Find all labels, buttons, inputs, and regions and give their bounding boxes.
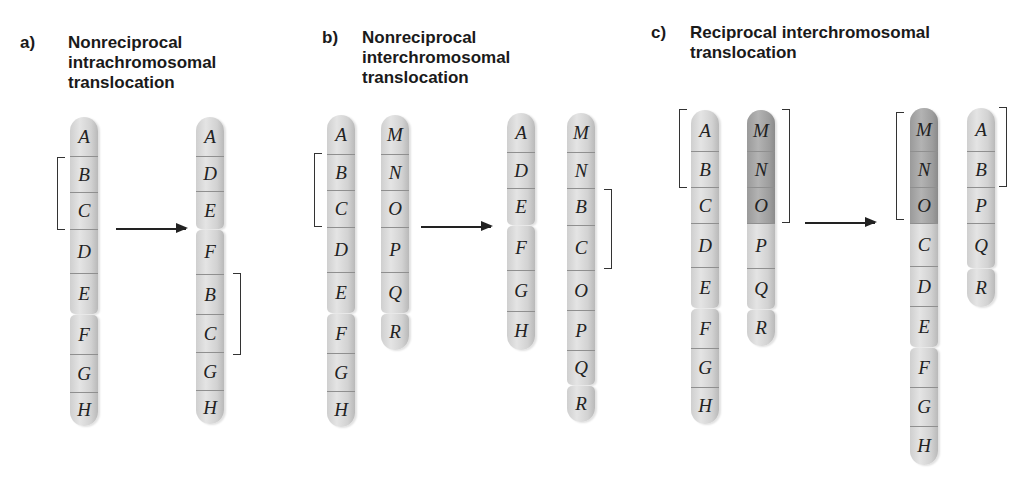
- chromosome-b-before-2: MNOPQR: [381, 115, 409, 350]
- band-m: M: [747, 110, 775, 152]
- band-o: O: [747, 188, 775, 224]
- title-line: Reciprocal interchromosomal: [690, 23, 930, 43]
- band-r: R: [567, 386, 595, 422]
- chromosome-c-before-1: ABCDEFGH: [691, 110, 719, 424]
- band-e: E: [196, 192, 224, 229]
- band-g: G: [327, 354, 355, 392]
- panel-b-title: Nonreciprocal interchromosomal transloca…: [362, 28, 510, 88]
- band-d: D: [691, 224, 719, 268]
- band-h: H: [70, 393, 98, 426]
- chromosome-c-before-2: MNOPQR: [747, 110, 775, 346]
- band-e: E: [910, 307, 938, 347]
- arrow-icon: [805, 222, 875, 224]
- q-arm: R: [567, 386, 595, 422]
- chromosome-b-after-1: ADEFGH: [507, 113, 535, 350]
- p-arm: ABCDE: [70, 117, 98, 314]
- band-e: E: [507, 189, 535, 225]
- segment-bracket: [679, 109, 687, 188]
- chromosome-c-after-2: ABPQR: [967, 108, 995, 307]
- band-f: F: [691, 309, 719, 349]
- panel-c-label: c): [651, 23, 666, 43]
- band-e: E: [327, 273, 355, 313]
- band-d: D: [910, 267, 938, 307]
- band-q: Q: [747, 269, 775, 309]
- p-arm: ADE: [196, 117, 224, 229]
- segment-bracket: [233, 273, 241, 355]
- band-d: D: [70, 230, 98, 274]
- title-line: Nonreciprocal: [68, 33, 216, 53]
- band-c: C: [910, 224, 938, 267]
- band-c: C: [567, 226, 595, 271]
- band-p: P: [747, 224, 775, 269]
- q-arm: FGH: [327, 314, 355, 427]
- title-line: Nonreciprocal: [362, 28, 510, 48]
- title-line: translocation: [68, 73, 216, 93]
- band-d: D: [507, 153, 535, 189]
- segment-bracket: [999, 107, 1007, 187]
- band-r: R: [967, 269, 995, 307]
- band-e: E: [691, 268, 719, 308]
- title-line: interchromosomal: [362, 48, 510, 68]
- q-arm: R: [747, 310, 775, 346]
- band-h: H: [196, 391, 224, 424]
- chromosome-a-after-1: ADEFBCGH: [196, 117, 224, 424]
- title-line: translocation: [690, 43, 930, 63]
- band-h: H: [507, 312, 535, 350]
- segment-bracket: [782, 109, 790, 223]
- band-b: B: [967, 152, 995, 188]
- band-b: B: [196, 275, 224, 315]
- band-m: M: [567, 113, 595, 153]
- band-g: G: [910, 388, 938, 427]
- band-p: P: [567, 311, 595, 351]
- chromosome-c-after-1: MNOCDEFGH: [910, 108, 938, 465]
- p-arm: ABPQ: [967, 108, 995, 268]
- band-q: Q: [567, 351, 595, 385]
- segment-bracket: [896, 112, 904, 220]
- band-a: A: [967, 108, 995, 152]
- band-c: C: [327, 191, 355, 228]
- segment-bracket: [57, 157, 65, 230]
- band-o: O: [567, 271, 595, 311]
- title-line: intrachromosomal: [68, 53, 216, 73]
- band-h: H: [910, 427, 938, 465]
- segment-bracket: [604, 189, 612, 269]
- band-a: A: [507, 113, 535, 153]
- q-arm: FBCGH: [196, 230, 224, 424]
- band-c: C: [70, 193, 98, 230]
- band-b: B: [327, 155, 355, 191]
- chromosome-a-before-1: ABCDEFGH: [70, 117, 98, 426]
- band-a: A: [327, 115, 355, 155]
- band-f: F: [507, 226, 535, 271]
- p-arm: MNOCDE: [910, 108, 938, 347]
- q-arm: FGH: [691, 309, 719, 424]
- band-m: M: [381, 115, 409, 155]
- band-e: E: [70, 274, 98, 314]
- arrow-icon: [421, 226, 491, 228]
- band-g: G: [691, 349, 719, 388]
- band-b: B: [567, 189, 595, 226]
- band-q: Q: [381, 273, 409, 313]
- band-c: C: [196, 315, 224, 353]
- band-p: P: [381, 228, 409, 273]
- q-arm: FGH: [507, 226, 535, 350]
- q-arm: FGH: [910, 348, 938, 465]
- panel-a-title: Nonreciprocal intrachromosomal transloca…: [68, 33, 216, 93]
- p-arm: MNOPQ: [747, 110, 775, 309]
- q-arm: FGH: [70, 315, 98, 426]
- q-arm: R: [381, 314, 409, 350]
- band-b: B: [70, 157, 98, 193]
- band-n: N: [381, 155, 409, 191]
- panel-a-label: a): [20, 33, 35, 53]
- band-o: O: [910, 188, 938, 224]
- segment-bracket: [314, 153, 322, 227]
- band-c: C: [691, 188, 719, 224]
- band-f: F: [910, 348, 938, 388]
- band-d: D: [196, 157, 224, 192]
- band-g: G: [507, 271, 535, 312]
- p-arm: MNBCOPQ: [567, 113, 595, 385]
- band-r: R: [747, 310, 775, 346]
- band-o: O: [381, 191, 409, 228]
- band-n: N: [910, 152, 938, 188]
- p-arm: MNOPQ: [381, 115, 409, 313]
- band-p: P: [967, 188, 995, 224]
